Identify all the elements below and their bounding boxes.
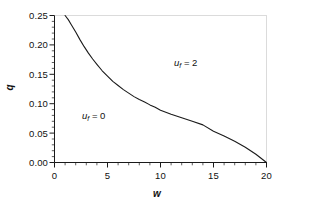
y-tick-label-0.00: 0.00 <box>18 157 48 168</box>
y-axis-title: q <box>4 84 15 90</box>
region-annotation-uf-0: uf = 0 <box>82 110 105 122</box>
y-tick-label-0.10: 0.10 <box>18 98 48 109</box>
annotation-value-upper: = 2 <box>181 57 197 68</box>
x-tick-label-0: 0 <box>44 170 65 181</box>
x-axis-title: w <box>153 188 161 199</box>
axis-spines <box>55 16 267 163</box>
x-tick-label-10: 10 <box>150 170 171 181</box>
annotation-value-lower: = 0 <box>89 110 105 121</box>
y-axis-ticks <box>50 16 55 163</box>
x-tick-label-20: 20 <box>256 170 277 181</box>
chart-figure: 0.25 0.20 0.15 0.10 0.05 0.00 0 5 10 15 … <box>0 0 310 206</box>
x-tick-label-15: 15 <box>203 170 224 181</box>
region-annotation-uf-2: uf = 2 <box>174 57 197 69</box>
y-tick-label-0.15: 0.15 <box>18 69 48 80</box>
y-tick-label-0.05: 0.05 <box>18 128 48 139</box>
x-tick-label-5: 5 <box>97 170 118 181</box>
boundary-curve <box>65 16 266 163</box>
y-tick-label-0.25: 0.25 <box>18 10 48 21</box>
y-tick-label-0.20: 0.20 <box>18 39 48 50</box>
